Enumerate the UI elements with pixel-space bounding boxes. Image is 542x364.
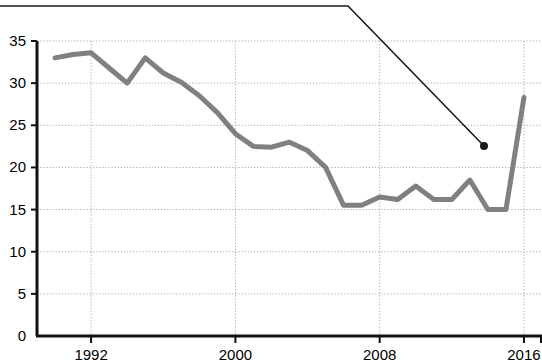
data-line-series	[55, 53, 524, 210]
y-tick-label: 0	[18, 327, 26, 344]
x-tick-label: 1992	[74, 346, 107, 363]
y-tick-label: 10	[9, 243, 26, 260]
x-tick-label: 2008	[363, 346, 396, 363]
y-tick-label: 15	[9, 201, 26, 218]
x-tick-label: 2016	[507, 346, 540, 363]
line-chart: 05101520253035 1992200020082016	[0, 0, 542, 364]
gridlines	[37, 41, 542, 294]
chart-container: 05101520253035 1992200020082016	[0, 0, 542, 364]
y-tick-label: 35	[9, 32, 26, 49]
x-tick-labels: 1992200020082016	[74, 346, 540, 363]
y-tick-label: 5	[18, 285, 26, 302]
annotation-marker-dot	[480, 142, 488, 150]
x-tick-label: 2000	[219, 346, 252, 363]
y-tick-label: 20	[9, 158, 26, 175]
x-axis	[36, 336, 542, 343]
y-axis	[31, 41, 37, 336]
y-tick-label: 25	[9, 116, 26, 133]
series-line-main-series	[55, 53, 524, 210]
annotation-pointer	[0, 6, 488, 150]
y-tick-label: 30	[9, 74, 26, 91]
y-tick-labels: 05101520253035	[9, 32, 26, 344]
